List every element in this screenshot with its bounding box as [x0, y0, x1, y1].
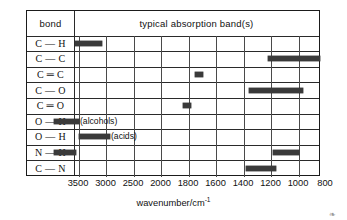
band-bar-c-h — [75, 41, 103, 46]
gridline — [79, 36, 80, 177]
xtick-1400: 1400 — [233, 178, 254, 188]
ir-absorption-figure: bond typical absorption band(s) C — H C … — [0, 0, 347, 220]
x-axis-title-text: wavenumber/cm — [136, 198, 204, 208]
bond-label-c-n: C — N — [27, 160, 74, 176]
band-bar-n-h-secondary — [273, 150, 299, 155]
xtick-3500: 3500 — [68, 178, 89, 188]
band-bar-n-h-primary — [54, 150, 76, 155]
annotation-acids: (acids) — [111, 131, 137, 141]
bond-label-c-dbl-o: C ═ O — [27, 98, 74, 114]
bond-label-o-h-acids: O — H — [27, 129, 74, 145]
band-bar-c-c — [268, 56, 320, 61]
stray-mark: ❧ — [329, 210, 335, 214]
xtick-1800: 1800 — [178, 178, 199, 188]
gridline — [161, 36, 162, 177]
header-absorption-band: typical absorption band(s) — [74, 11, 319, 36]
band-bar-c-double-o — [183, 103, 191, 108]
bond-label-c-dbl-c: C ═ C — [27, 67, 74, 83]
xtick-1000: 1000 — [288, 178, 309, 188]
xtick-2000: 2000 — [150, 178, 171, 188]
band-bar-c-double-c — [195, 72, 203, 77]
xtick-2500: 2500 — [123, 178, 144, 188]
band-bar-c-o — [249, 88, 303, 93]
annotation-alcohols: (alcohols) — [80, 116, 117, 126]
xtick-3000: 3000 — [95, 178, 116, 188]
gridline — [134, 36, 135, 177]
x-axis-title: wavenumber/cm-1 — [0, 196, 347, 208]
band-bar-o-h-alcohols — [54, 119, 79, 124]
xtick-1600: 1600 — [205, 178, 226, 188]
gridline — [244, 36, 245, 177]
gridline — [216, 36, 217, 177]
band-bar-c-n — [246, 166, 276, 171]
bond-label-c-o: C — O — [27, 82, 74, 98]
band-bar-o-h-acids — [79, 134, 110, 139]
bond-label-c-h: C — H — [27, 36, 74, 52]
absorption-table: bond typical absorption band(s) C — H C … — [26, 10, 320, 176]
xtick-800: 800 — [317, 178, 333, 188]
header-bond: bond — [27, 11, 74, 36]
xtick-1200: 1200 — [260, 178, 281, 188]
gridline — [106, 36, 107, 177]
x-axis-title-exponent: -1 — [205, 196, 211, 203]
bond-label-c-c: C — C — [27, 51, 74, 67]
